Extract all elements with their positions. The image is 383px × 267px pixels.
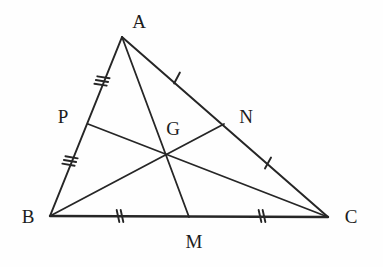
tick-pb bbox=[64, 160, 76, 162]
tick-pb bbox=[62, 164, 74, 166]
congruence-tick-marks bbox=[62, 73, 271, 223]
tick-bm bbox=[121, 210, 124, 222]
label-point-a: A bbox=[132, 12, 146, 31]
label-point-n: N bbox=[239, 107, 253, 126]
label-point-m: M bbox=[186, 232, 203, 251]
tick-ap bbox=[96, 80, 108, 82]
tick-mc bbox=[263, 210, 266, 222]
tick-pb bbox=[65, 156, 77, 158]
label-point-b: B bbox=[22, 207, 35, 226]
median-cp-line bbox=[88, 124, 328, 217]
tick-mc bbox=[259, 210, 262, 222]
tick-an bbox=[174, 73, 180, 84]
triangle-sides bbox=[50, 37, 328, 217]
tick-bm bbox=[117, 210, 120, 222]
label-point-c: C bbox=[345, 207, 358, 226]
geometry-figure: A B C P N M G bbox=[0, 0, 383, 267]
tick-ap bbox=[97, 76, 109, 78]
tick-ap bbox=[94, 84, 106, 86]
median-bn-line bbox=[50, 124, 224, 216]
label-point-p: P bbox=[58, 107, 69, 126]
label-point-g: G bbox=[166, 119, 180, 138]
side-ab-line bbox=[50, 37, 122, 216]
side-ac-line bbox=[122, 37, 328, 217]
triangle-diagram bbox=[0, 0, 383, 267]
median-lines bbox=[50, 37, 328, 217]
